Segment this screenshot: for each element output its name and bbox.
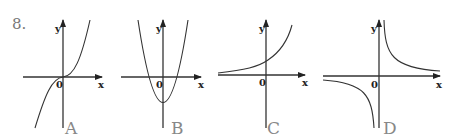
panel-d: y x 0 D	[323, 20, 443, 138]
origin-label: 0	[56, 79, 63, 90]
question-number: 8.	[12, 15, 26, 33]
panel-label-a: A	[64, 118, 78, 138]
panel-c: y x 0 C	[218, 20, 309, 138]
panel-b: y x 0 B	[121, 20, 205, 138]
origin-label: 0	[371, 79, 378, 90]
hyperbola-branch-upper	[384, 20, 440, 71]
function-graphs-figure: 8. y x 0 A y x 0 B y x 0 C y x 0 D	[0, 0, 454, 139]
hyperbola-branch-lower	[323, 80, 374, 128]
x-axis-label: x	[302, 77, 309, 88]
panel-label-d: D	[383, 118, 397, 138]
y-axis-label: y	[258, 23, 266, 34]
x-axis-label: x	[436, 79, 443, 90]
panel-label-b: B	[171, 118, 184, 138]
panel-label-c: C	[267, 118, 280, 138]
x-axis-label: x	[98, 79, 105, 90]
y-axis-label: y	[155, 23, 163, 34]
exponential-curve	[218, 25, 292, 73]
y-axis-label: y	[54, 23, 62, 34]
y-axis-label: y	[370, 23, 378, 34]
panel-a: y x 0 A	[23, 20, 105, 138]
x-axis-label: x	[198, 79, 205, 90]
origin-label: 0	[156, 79, 163, 90]
origin-label: 0	[259, 77, 266, 88]
